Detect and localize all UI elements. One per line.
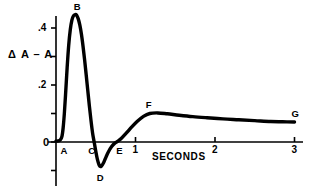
x-tick-label: 3 — [292, 144, 298, 155]
data-series-curve — [56, 15, 295, 167]
curve-point-label-b: B — [74, 1, 81, 12]
x-tick-label: 2 — [212, 144, 218, 155]
x-tick-label: 1 — [133, 144, 139, 155]
curve-point-label-e: E — [116, 145, 122, 156]
chart-figure — [0, 0, 311, 192]
curve-point-label-d: D — [97, 172, 104, 183]
y-tick-label: .2 — [38, 79, 46, 90]
x-axis-title: SECONDS — [152, 151, 206, 162]
curve-point-label-c: C — [88, 145, 95, 156]
y-axis-title: Δ A – A — [8, 48, 53, 60]
curve-point-label-g: G — [292, 108, 299, 119]
y-tick-label: 0 — [43, 136, 49, 148]
curve-point-label-f: F — [146, 99, 152, 110]
curve-point-label-a: A — [61, 145, 68, 156]
y-tick-label: .4 — [38, 22, 46, 33]
